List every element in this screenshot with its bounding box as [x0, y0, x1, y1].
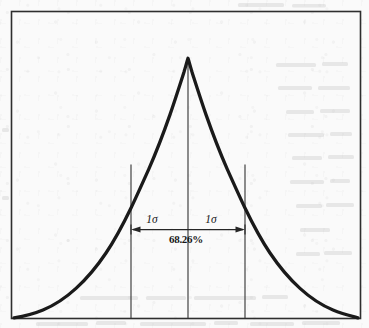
sigma-label-left: 1σ: [146, 213, 159, 225]
gaussian-curve: [14, 58, 358, 318]
percent-label: 68.26%: [169, 233, 203, 245]
figure-page: 1σ 1σ 68.26%: [0, 0, 369, 328]
distribution-diagram: 1σ 1σ 68.26%: [0, 0, 369, 328]
sigma-label-right: 1σ: [205, 213, 218, 225]
figure-frame: [12, 12, 361, 319]
